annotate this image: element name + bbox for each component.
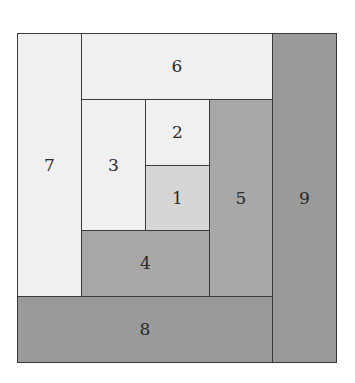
patch-number: 7 — [44, 157, 55, 174]
patch-number: 2 — [172, 124, 183, 141]
patch-number: 8 — [140, 321, 151, 338]
patch-7: 7 — [17, 33, 82, 297]
patch-4: 4 — [81, 230, 210, 297]
patch-8: 8 — [17, 296, 273, 363]
patch-number: 3 — [108, 157, 119, 174]
patch-number: 1 — [172, 190, 183, 207]
patch-2: 2 — [145, 99, 210, 166]
patch-number: 4 — [140, 255, 151, 272]
patch-number: 6 — [172, 58, 183, 75]
patch-6: 6 — [81, 33, 273, 100]
patch-1: 1 — [145, 165, 210, 231]
log-cabin-block: 123456789 — [17, 33, 336, 362]
patch-3: 3 — [81, 99, 146, 231]
patch-5: 5 — [209, 99, 273, 297]
patch-9: 9 — [272, 33, 337, 363]
patch-number: 5 — [236, 190, 247, 207]
patch-number: 9 — [299, 190, 310, 207]
